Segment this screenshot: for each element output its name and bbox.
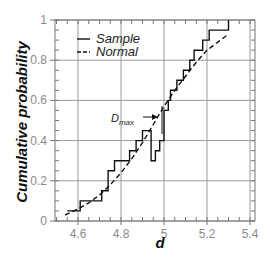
y-tick-label: 0.4 [30, 134, 47, 148]
x-tick-label: 5.2 [199, 227, 216, 241]
axis-ticks [50, 20, 255, 225]
normal-cdf-line [65, 34, 228, 215]
y-tick-label: 1 [40, 13, 47, 27]
x-tick-label: 4.6 [70, 227, 87, 241]
y-tick-label: 0 [40, 214, 47, 228]
x-tick-label: 4.8 [113, 227, 130, 241]
legend: Sample Normal [77, 31, 140, 59]
dmax-annotation: Dmax [111, 106, 162, 134]
legend-label-normal: Normal [96, 44, 139, 59]
y-tick-labels: 00.20.40.60.81 [30, 13, 47, 228]
dmax-label: Dmax [111, 112, 135, 127]
y-tick-label: 0.6 [30, 93, 47, 107]
dmax-arrowhead-icon [152, 114, 158, 120]
y-axis-title: Cumulative probability [13, 41, 30, 203]
y-tick-label: 0.2 [30, 174, 47, 188]
y-tick-label: 0.8 [30, 53, 47, 67]
cdf-chart: 4.64.855.25.4 00.20.40.60.81 Sample Norm… [0, 0, 270, 267]
grid-lines [55, 20, 255, 221]
x-tick-label: 5.4 [242, 227, 259, 241]
x-axis-title: d [155, 234, 165, 251]
plot-frame [55, 20, 255, 221]
sample-ecdf-step [67, 20, 228, 211]
